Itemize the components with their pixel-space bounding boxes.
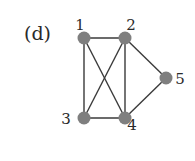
node-label-4: 4 — [127, 116, 137, 134]
node-5 — [160, 72, 173, 85]
node-label-2: 2 — [126, 16, 136, 34]
edge-4-5 — [125, 78, 166, 118]
node-label-1: 1 — [75, 16, 85, 34]
node-3 — [78, 112, 91, 125]
node-label-3: 3 — [61, 110, 71, 128]
edge-2-5 — [125, 38, 166, 78]
edges — [84, 38, 166, 118]
panel-label: (d) — [24, 22, 51, 44]
graph-diagram: (d) 12345 — [0, 0, 195, 161]
node-label-5: 5 — [175, 70, 185, 88]
